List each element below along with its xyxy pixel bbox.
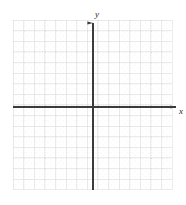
coordinate-plane-svg: y x: [0, 0, 186, 205]
coordinate-plane-figure: y x: [0, 0, 186, 205]
y-axis-label: y: [94, 9, 99, 19]
x-axis-label: x: [178, 106, 183, 116]
